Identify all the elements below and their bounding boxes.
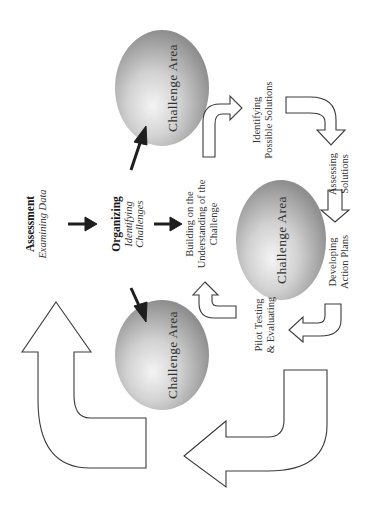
challenge-sphere-bottom: Challenge Area [115, 300, 209, 410]
building-line-1: Building on the [184, 191, 195, 257]
identifying-step-label: Identifying Possible Solutions [251, 81, 274, 158]
solid-arrow-assessment-to-organizing [68, 217, 97, 231]
pilot-line-1: Pilot Testing [253, 298, 264, 352]
sphere-label: Challenge Area [165, 311, 180, 399]
developing-step-label: Developing Action Plans [327, 235, 350, 289]
developing-line-2: Action Plans [339, 235, 350, 289]
organizing-subtitle-2: Challenges [134, 200, 145, 247]
pilot-line-2: & Evaluating [265, 296, 276, 353]
challenge-sphere-center: Challenge Area [236, 180, 326, 300]
challenge-sphere-top: Challenge Area [115, 30, 209, 146]
assessment-title: Assessment [24, 196, 36, 252]
identifying-line-2: Possible Solutions [263, 81, 274, 158]
solid-arrow-organizing-to-building [154, 217, 182, 231]
identifying-line-1: Identifying [251, 96, 262, 143]
cycle-arrow-to-pilot [289, 304, 341, 342]
developing-line-1: Developing [327, 237, 338, 287]
cycle-arrow-to-building [193, 282, 236, 318]
cycle-arrow-to-assessing [286, 97, 345, 145]
cycle-diagram: Challenge Area Challenge Area Challenge … [0, 0, 369, 512]
large-return-arrow-left [184, 370, 327, 487]
assessment-subtitle: Examining Data [37, 189, 48, 259]
cycle-arrow-to-identifying [203, 96, 242, 157]
organizing-label: Organizing Identifying Challenges [110, 196, 145, 252]
assessing-line-1: Assessing [327, 152, 338, 195]
sphere-label: Challenge Area [274, 196, 289, 284]
pilot-step-label: Pilot Testing & Evaluating [253, 296, 276, 353]
building-step-label: Building on the Understanding of the Cha… [184, 179, 219, 268]
building-line-2: Understanding of the [196, 179, 207, 268]
organizing-subtitle-1: Identifying [123, 201, 134, 248]
sphere-label: Challenge Area [165, 44, 180, 132]
organizing-title: Organizing [110, 196, 123, 252]
assessment-label: Assessment Examining Data [24, 189, 48, 259]
assessing-step-label: Assessing Solutions [327, 152, 350, 195]
building-line-3: Challenge [208, 202, 219, 245]
assessing-line-2: Solutions [339, 154, 350, 194]
